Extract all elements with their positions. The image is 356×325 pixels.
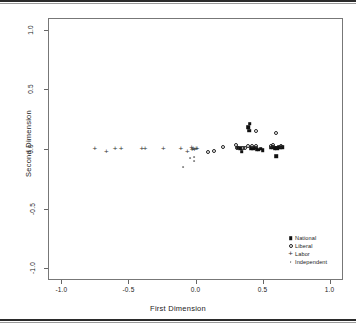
- data-point-independent: [189, 157, 191, 159]
- data-point-independent: [182, 167, 184, 169]
- legend-item-label: Labor: [295, 251, 310, 257]
- data-point-labor: [103, 148, 110, 155]
- small-dot-icon: [286, 258, 295, 266]
- data-point-liberal: [235, 146, 239, 150]
- x-axis-tick: [61, 280, 62, 284]
- data-point-labor: [91, 144, 98, 151]
- x-axis-tick: [263, 280, 264, 284]
- data-point-liberal: [206, 150, 210, 154]
- scatter-plot-figure: -1.0-0.50.00.51.0-1.0-0.50.00.51.0 First…: [0, 0, 356, 325]
- y-axis-tick-label: -1.0: [29, 262, 36, 274]
- filled-square-icon: [286, 234, 295, 242]
- bottom-border-rule-secondary: [0, 322, 356, 323]
- x-axis-tick: [330, 280, 331, 284]
- data-point-national: [240, 150, 244, 154]
- data-point-national: [261, 148, 265, 152]
- plus-icon: +: [286, 250, 295, 258]
- data-point-labor: [118, 144, 125, 151]
- x-axis-tick: [196, 280, 197, 284]
- data-point-labor: [160, 144, 167, 151]
- legend-item-national[interactable]: National: [286, 234, 340, 242]
- data-point-independent: [193, 160, 195, 162]
- data-point-liberal: [221, 145, 225, 149]
- legend-item-independent[interactable]: Independent: [286, 258, 340, 266]
- bottom-border-rule: [0, 319, 356, 321]
- data-point-labor: [194, 145, 201, 152]
- x-axis-label: First Dimension: [0, 304, 356, 313]
- x-axis-tick-label: 0.5: [258, 286, 268, 293]
- data-point-liberal: [212, 149, 216, 153]
- y-axis-label: Second Dimension: [24, 64, 33, 224]
- top-border-rule: [0, 0, 356, 2]
- data-point-liberal: [254, 129, 258, 133]
- legend-item-liberal[interactable]: Liberal: [286, 242, 340, 250]
- data-point-labor: [142, 145, 149, 152]
- data-point-liberal: [274, 131, 278, 135]
- legend-item-label: Independent: [295, 259, 327, 265]
- data-point-national: [274, 154, 278, 158]
- data-point-national: [248, 122, 252, 126]
- x-axis-tick-label: -1.0: [55, 286, 67, 293]
- data-point-liberal: [254, 144, 258, 148]
- data-point-independent: [193, 156, 195, 158]
- data-point-liberal: [271, 143, 275, 147]
- y-axis-tick-label: 1.0: [27, 25, 34, 35]
- x-axis-tick-label: 0.0: [191, 286, 201, 293]
- data-point-liberal: [279, 144, 283, 148]
- x-axis-tick: [128, 280, 129, 284]
- top-border-rule-secondary: [0, 3, 356, 4]
- data-point-national: [247, 129, 251, 133]
- legend-item-label: National: [295, 235, 316, 241]
- chart-legend: NationalLiberal+LaborIndependent: [286, 234, 340, 266]
- x-axis-tick-label: 1.0: [325, 286, 335, 293]
- x-axis-tick-label: -0.5: [122, 286, 134, 293]
- legend-item-label: Liberal: [295, 243, 313, 249]
- legend-item-labor[interactable]: +Labor: [286, 250, 340, 258]
